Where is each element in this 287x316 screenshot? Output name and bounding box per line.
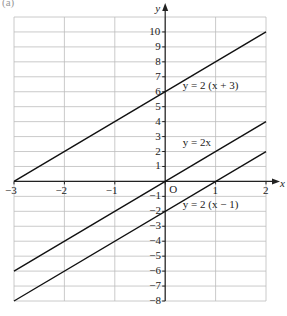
y-tick-label: −2 [149,205,161,216]
x-axis-arrow-icon [272,178,280,184]
y-tick-label: 1 [155,160,161,171]
series-annotation: y = 2x [183,137,211,148]
y-tick-label: 8 [155,56,161,67]
y-tick-label: −1 [149,190,161,201]
y-tick-label: −8 [149,295,161,306]
series-annotation: y = 2 (x − 1) [183,199,238,210]
y-tick-label: −3 [149,220,161,231]
line-chart [0,0,287,316]
y-tick-label: 10 [149,26,160,37]
series-annotation: y = 2 (x + 3) [183,80,238,91]
y-tick-label: −7 [149,280,161,291]
y-tick-label: −6 [149,265,161,276]
x-tick-label: 1 [213,185,219,196]
x-tick-label: −3 [5,185,17,196]
y-tick-label: 6 [155,86,161,97]
x-tick-label: −2 [55,185,67,196]
y-tick-label: 7 [155,71,161,82]
y-tick-label: −5 [149,250,161,261]
x-tick-label: 2 [263,185,269,196]
origin-label: O [169,184,177,195]
y-tick-label: −4 [149,235,161,246]
y-axis-label: y [155,3,160,14]
y-tick-label: 9 [155,41,161,52]
y-axis-arrow-icon [162,3,168,11]
y-tick-label: 2 [155,146,161,157]
y-tick-label: 4 [155,116,161,127]
x-axis-label: x [280,178,285,189]
y-tick-label: 3 [155,131,161,142]
x-tick-label: −1 [106,185,118,196]
y-tick-label: 5 [155,101,161,112]
